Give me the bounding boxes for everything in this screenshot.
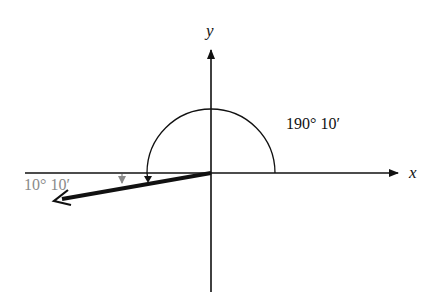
angle-diagram: y x 190° 10′ 10° 10′ [0, 0, 439, 308]
x-axis-label: x [408, 163, 417, 182]
reference-arrowhead-icon [118, 176, 126, 184]
y-axis-label: y [204, 21, 214, 40]
reference-angle-label: 10° 10′ [24, 176, 70, 193]
angle-label: 190° 10′ [286, 115, 340, 132]
terminal-side [62, 173, 211, 199]
